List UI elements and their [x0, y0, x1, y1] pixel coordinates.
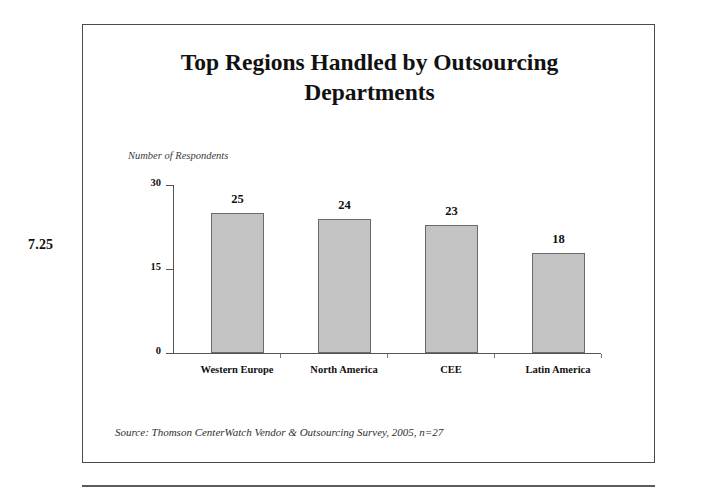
page-divider-rule — [82, 485, 655, 487]
category-label-cee: CEE — [401, 364, 501, 375]
plot-area: 30 15 0 25 Western Europe 24 North Ameri… — [173, 180, 603, 360]
category-label-western-europe: Western Europe — [187, 364, 287, 375]
y-tick-label-30: 30 — [151, 177, 162, 188]
bar-latin-america[interactable] — [532, 253, 585, 353]
bar-value-western-europe: 25 — [211, 192, 264, 207]
y-tick-label-0: 0 — [156, 345, 161, 356]
chart-title: Top Regions Handled by Outsourcing Depar… — [123, 47, 616, 107]
bar-cee[interactable] — [425, 225, 478, 353]
x-tick-2 — [387, 354, 388, 358]
bar-north-america[interactable] — [318, 219, 371, 353]
source-note: Source: Thomson CenterWatch Vendor & Out… — [115, 426, 443, 438]
chart-frame: Top Regions Handled by Outsourcing Depar… — [82, 24, 655, 463]
x-tick-4 — [601, 354, 602, 358]
bar-value-cee: 23 — [425, 204, 478, 219]
figure-number: 7.25 — [28, 237, 53, 253]
y-axis-line — [173, 185, 174, 353]
y-tick-0: 0 — [166, 353, 173, 354]
category-label-latin-america: Latin America — [508, 364, 608, 375]
bar-value-latin-america: 18 — [532, 232, 585, 247]
x-tick-3 — [494, 354, 495, 358]
y-tick-15: 15 — [166, 269, 173, 270]
category-label-north-america: North America — [294, 364, 394, 375]
y-tick-30: 30 — [166, 185, 173, 186]
y-tick-label-15: 15 — [151, 261, 162, 272]
x-tick-1 — [280, 354, 281, 358]
y-axis-label: Number of Respondents — [128, 150, 228, 161]
bar-value-north-america: 24 — [318, 198, 371, 213]
bar-western-europe[interactable] — [211, 213, 264, 353]
